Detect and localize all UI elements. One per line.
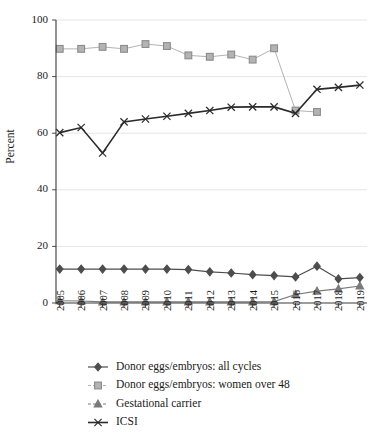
- data-point: [206, 53, 213, 60]
- x-tick-label: 2007: [98, 290, 109, 311]
- data-point: [99, 149, 106, 156]
- data-point: [335, 275, 342, 283]
- legend-marker: [95, 382, 102, 389]
- data-point: [164, 265, 171, 273]
- x-tick-label: 2019: [355, 290, 366, 311]
- data-point: [142, 41, 149, 48]
- data-point: [56, 45, 63, 52]
- data-point: [121, 265, 128, 273]
- data-point: [271, 272, 278, 280]
- data-point: [249, 271, 256, 279]
- legend-label: Gestational carrier: [116, 397, 201, 409]
- percent-line-chart: 020406080100Percent200520062007200820092…: [0, 0, 373, 433]
- x-tick-label: 2011: [183, 290, 194, 311]
- data-point: [99, 265, 106, 273]
- legend: Donor eggs/embryos: all cyclesDonor eggs…: [88, 360, 290, 428]
- data-point: [314, 109, 321, 116]
- data-point: [207, 268, 214, 276]
- x-tick-label: 2014: [248, 289, 259, 311]
- data-point: [164, 43, 171, 50]
- data-point: [78, 265, 85, 273]
- series-cross: [56, 81, 363, 156]
- data-point: [121, 45, 128, 52]
- legend-label: ICSI: [116, 415, 138, 427]
- x-tick-label: 2018: [333, 290, 344, 311]
- y-tick-label: 0: [43, 296, 49, 308]
- data-point: [228, 51, 235, 58]
- legend-label: Donor eggs/embryos: women over 48: [116, 378, 290, 391]
- series-diamond: [56, 262, 363, 283]
- x-tick-label: 2008: [119, 290, 130, 311]
- series-line: [60, 85, 360, 153]
- legend-marker: [95, 363, 102, 371]
- legend-item[interactable]: ICSI: [88, 415, 138, 427]
- data-point: [142, 265, 149, 273]
- data-point: [56, 265, 63, 273]
- y-axis-title: Percent: [4, 128, 16, 163]
- data-point: [356, 282, 364, 289]
- y-tick-label: 60: [37, 126, 49, 138]
- y-tick-label: 20: [37, 239, 49, 251]
- y-tick-label: 40: [37, 182, 49, 194]
- data-point: [292, 273, 299, 281]
- data-point: [357, 274, 364, 282]
- series-square: [56, 41, 320, 116]
- series-group: [56, 41, 364, 305]
- axes-group: [52, 20, 367, 307]
- chart-container: 020406080100Percent200520062007200820092…: [0, 0, 373, 433]
- y-tick-label: 80: [37, 69, 49, 81]
- legend-item[interactable]: Donor eggs/embryos: women over 48: [88, 378, 290, 391]
- data-point: [271, 45, 278, 52]
- x-tick-label: 2016: [291, 290, 302, 311]
- data-point: [314, 262, 321, 270]
- data-point: [185, 266, 192, 274]
- data-point: [185, 52, 192, 59]
- legend-label: Donor eggs/embryos: all cycles: [116, 360, 262, 373]
- data-point: [78, 45, 85, 52]
- legend-item[interactable]: Gestational carrier: [88, 397, 201, 409]
- y-tick-label: 100: [32, 13, 49, 25]
- x-tick-label: 2017: [312, 290, 323, 311]
- x-tick-label: 2010: [162, 290, 173, 311]
- x-tick-label: 2009: [140, 290, 151, 311]
- x-tick-label: 2006: [76, 290, 87, 311]
- x-tick-label: 2015: [269, 290, 280, 311]
- legend-item[interactable]: Donor eggs/embryos: all cycles: [88, 360, 262, 373]
- x-tick-label: 2012: [205, 290, 216, 311]
- x-tick-label: 2013: [226, 290, 237, 311]
- data-point: [228, 269, 235, 277]
- x-tick-label: 2005: [55, 290, 66, 311]
- data-point: [99, 43, 106, 50]
- data-point: [249, 56, 256, 63]
